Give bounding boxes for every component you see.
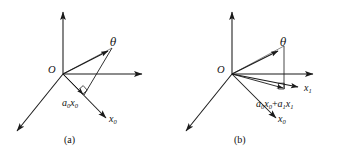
- axis-x0-b: [232, 74, 276, 118]
- right-angle-marker-a: [79, 86, 88, 95]
- axis-x1-label-b: x1: [304, 83, 312, 93]
- figure-root: O θ x0 a0x0 (a): [0, 0, 341, 159]
- origin-label-b: O: [217, 65, 225, 76]
- diagram-b: [170, 0, 340, 159]
- theta-label-a: θ: [110, 37, 116, 48]
- panel-b: O θ x1 x0 a0x0+a1x1 (b): [170, 0, 340, 159]
- origin-label-a: O: [48, 65, 56, 76]
- projection-label-a: a0x0: [62, 98, 78, 108]
- caption-a: (a): [64, 135, 75, 145]
- projection-label-b: a0x0+a1x1: [256, 99, 294, 109]
- segment-triangle-close-b: [232, 46, 284, 74]
- panel-a: O θ x0 a0x0 (a): [0, 0, 170, 159]
- axis-x0-label-b: x0: [278, 114, 286, 124]
- theta-label-b: θ: [280, 37, 286, 48]
- diagram-a: [0, 0, 170, 159]
- axis-x0-label-a: x0: [109, 114, 117, 124]
- segment-perpendicular-a: [84, 48, 112, 95]
- axis-x1-b: [232, 74, 298, 87]
- axis-diagonal-left-b: [186, 74, 232, 131]
- caption-b: (b): [234, 135, 246, 145]
- axis-diagonal-left-a: [17, 74, 63, 131]
